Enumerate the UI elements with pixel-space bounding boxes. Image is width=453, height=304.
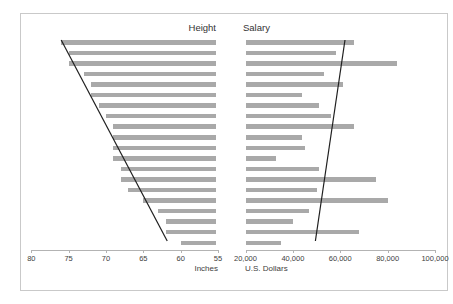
chart-figure: Height Salary 80757065605520,00040,00060… xyxy=(0,0,453,304)
salary-trend-line xyxy=(315,40,345,241)
left-axis-unit-label: Inches xyxy=(194,264,218,273)
height-trend-line xyxy=(61,40,167,241)
right-axis-unit-label: U.S. Dollars xyxy=(245,264,288,273)
trend-lines-overlay xyxy=(0,0,453,304)
